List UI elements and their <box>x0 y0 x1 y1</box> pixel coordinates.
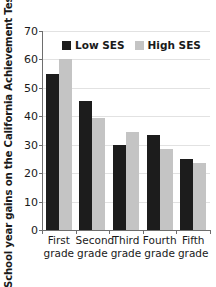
bar-high-ses <box>59 59 72 230</box>
y-tick-label: 40 <box>24 110 38 123</box>
x-axis-line <box>42 230 210 231</box>
x-category-label-line2: grade <box>42 247 76 260</box>
bar-low-ses <box>113 145 126 230</box>
y-tick-label: 10 <box>24 195 38 208</box>
x-category-label-line1: Third <box>109 234 143 247</box>
x-category-label: Thirdgrade <box>109 234 143 259</box>
x-category-label: Fourthgrade <box>143 234 177 259</box>
x-category-label-line2: grade <box>109 247 143 260</box>
y-tick-label: 70 <box>24 25 38 38</box>
legend-item-high-ses: High SES <box>135 39 201 51</box>
y-tick-label: 60 <box>24 53 38 66</box>
bars-layer <box>42 31 210 230</box>
y-tick-label: 30 <box>24 138 38 151</box>
x-category-label: Firstgrade <box>42 234 76 259</box>
x-category-label-line1: Fifth <box>176 234 210 247</box>
x-category-label-line1: Second <box>76 234 110 247</box>
plot-area <box>42 31 210 230</box>
bar-high-ses <box>160 149 173 230</box>
x-category-label-line1: First <box>42 234 76 247</box>
legend-swatch-icon <box>135 41 144 50</box>
bar-low-ses <box>180 159 193 230</box>
legend-item-low-ses: Low SES <box>62 39 125 51</box>
bar-low-ses <box>46 74 59 230</box>
legend-label: Low SES <box>75 39 125 51</box>
legend-swatch-icon <box>62 41 71 50</box>
chart-legend: Low SESHigh SES <box>62 39 201 51</box>
y-axis-tick-labels: 010203040506070 <box>16 0 40 279</box>
bar-low-ses <box>147 135 160 230</box>
y-axis-title-text: School year gains on the California Achi… <box>3 0 14 287</box>
x-category-label-line1: Fourth <box>143 234 177 247</box>
y-tick-label: 0 <box>31 224 38 237</box>
x-category-label-line2: grade <box>76 247 110 260</box>
x-category-label-line2: grade <box>143 247 177 260</box>
bar-high-ses <box>193 163 206 230</box>
y-axis-title: School year gains on the California Achi… <box>0 0 16 279</box>
bar-high-ses <box>92 118 105 230</box>
bar-low-ses <box>79 101 92 230</box>
x-category-label-line2: grade <box>176 247 210 260</box>
x-axis-category-labels: FirstgradeSecondgradeThirdgradeFourthgra… <box>42 234 216 274</box>
y-tick-label: 50 <box>24 81 38 94</box>
legend-label: High SES <box>148 39 201 51</box>
x-category-label: Fifthgrade <box>176 234 210 259</box>
x-category-label: Secondgrade <box>76 234 110 259</box>
y-tick-label: 20 <box>24 167 38 180</box>
bar-high-ses <box>126 132 139 230</box>
